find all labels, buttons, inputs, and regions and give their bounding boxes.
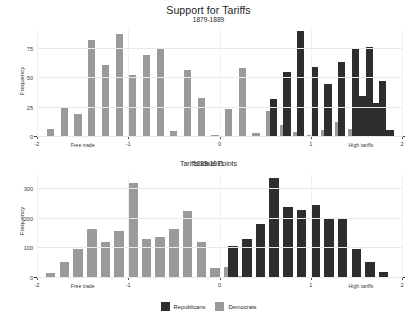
y-axis-tick-label: 300 xyxy=(24,186,33,192)
legend-item-democrats[interactable]: Democrats xyxy=(215,302,256,311)
histogram-bar-democrats xyxy=(128,183,138,278)
gridline-vertical xyxy=(402,29,403,137)
legend-item-republicans[interactable]: Republicans xyxy=(161,302,206,311)
histogram-bar-republicans xyxy=(256,224,266,278)
axis-annotation: High tariffs xyxy=(349,142,374,148)
x-axis-tick-mark xyxy=(220,278,221,280)
tariffs-support-figure: Support for Tariffs 1879-1889 Frequency … xyxy=(0,0,417,323)
x-axis-tick-mark xyxy=(37,278,38,280)
histogram-bar-democrats xyxy=(183,211,193,278)
histogram-bar-republicans xyxy=(359,96,366,137)
y-axis-tick-label: 100 xyxy=(24,245,33,251)
x-axis-tick-label: 0 xyxy=(218,141,221,147)
histogram-bar-democrats xyxy=(88,40,95,137)
y-axis-tick-label: 0 xyxy=(30,275,33,281)
histogram-bar-republicans xyxy=(324,219,334,278)
histogram-bar-republicans xyxy=(352,249,362,278)
histogram-bar-republicans xyxy=(297,210,307,278)
axis-annotation: Free trade xyxy=(71,283,95,289)
histogram-bar-republicans xyxy=(269,178,279,278)
x-axis-tick-label: 1 xyxy=(309,141,312,147)
histogram-bar-democrats xyxy=(102,65,109,137)
gridline-vertical xyxy=(128,174,129,278)
y-axis-tick-label: 75 xyxy=(27,46,33,52)
x-axis-tick-label: 1 xyxy=(309,282,312,288)
x-axis-tick-mark xyxy=(402,278,403,280)
histogram-bar-republicans xyxy=(365,262,375,278)
histogram-bar-democrats xyxy=(73,249,83,278)
histogram-bar-democrats xyxy=(184,70,191,137)
x-axis-tick-label: 2 xyxy=(400,141,403,147)
histogram-bar-democrats xyxy=(116,34,123,137)
x-axis-tick-label: 0 xyxy=(218,282,221,288)
page-title: Support for Tariffs xyxy=(0,4,417,16)
gridline-vertical xyxy=(220,174,221,278)
histogram-bar-republicans xyxy=(228,246,238,278)
x-axis-tick-mark xyxy=(220,137,221,139)
legend-label: Democrats xyxy=(228,304,256,310)
y-axis-tick-label: 50 xyxy=(27,75,33,81)
panel-subtitle-top: 1879-1889 xyxy=(0,16,417,23)
gridline-vertical xyxy=(128,29,129,137)
histogram-bar-democrats xyxy=(61,108,68,137)
histogram-bar-democrats xyxy=(157,48,164,137)
x-axis-tick-mark xyxy=(37,137,38,139)
gridline-vertical xyxy=(311,174,312,278)
histogram-bar-republicans xyxy=(366,47,373,137)
plot-area-bottom: 0100200300-2-1012Free tradeHigh tariffs xyxy=(37,174,402,278)
histogram-bar-democrats xyxy=(87,229,97,278)
x-axis-tick-mark xyxy=(311,278,312,280)
gridline-vertical xyxy=(402,174,403,278)
histogram-bar-republicans xyxy=(311,205,321,278)
histogram-bar-republicans xyxy=(270,99,277,137)
histogram-bar-democrats xyxy=(155,237,165,278)
histogram-bar-republicans xyxy=(352,49,359,137)
axis-annotation: High tariffs xyxy=(349,283,374,289)
x-axis-tick-label: -1 xyxy=(126,141,131,147)
gridline-vertical xyxy=(37,174,38,278)
x-axis-tick-mark xyxy=(128,137,129,139)
plot-area-top: 0255075-2-1012Free tradeHigh tariffs xyxy=(37,29,402,137)
y-axis-label-top: Frequency xyxy=(19,67,25,95)
histogram-bar-democrats xyxy=(198,98,205,137)
x-axis-tick-label: 2 xyxy=(400,282,403,288)
histogram-bar-republicans xyxy=(242,239,252,278)
y-axis-tick-label: 25 xyxy=(27,105,33,111)
axis-annotation: Free trade xyxy=(71,142,95,148)
x-axis-tick-label: -2 xyxy=(35,141,40,147)
histogram-bar-democrats xyxy=(114,231,124,278)
chart-panel-1889-1911: 1889-1911 Frequency 0100200300-2-1012Fre… xyxy=(0,160,417,300)
histogram-bar-republicans xyxy=(324,84,331,137)
histogram-bar-democrats xyxy=(225,109,232,137)
histogram-bar-democrats xyxy=(60,262,70,278)
gridline-vertical xyxy=(311,29,312,137)
histogram-bar-republicans xyxy=(283,72,290,137)
panel-subtitle-bottom: 1889-1911 xyxy=(0,160,417,167)
histogram-bar-republicans xyxy=(373,103,380,137)
legend-label: Republicans xyxy=(174,304,206,310)
histogram-bar-democrats xyxy=(143,55,150,137)
histogram-bar-democrats xyxy=(74,114,81,137)
x-axis-tick-mark xyxy=(311,137,312,139)
x-axis-tick-mark xyxy=(402,137,403,139)
gridline-vertical xyxy=(37,29,38,137)
chart-legend: RepublicansDemocrats xyxy=(0,302,417,311)
gridline-vertical xyxy=(220,29,221,137)
histogram-bar-republicans xyxy=(379,81,386,137)
legend-swatch-republicans xyxy=(161,302,170,311)
x-axis-tick-label: -1 xyxy=(126,282,131,288)
chart-panel-1879-1889: 1879-1889 Frequency 0255075-2-1012Free t… xyxy=(0,16,417,166)
histogram-bar-democrats xyxy=(169,229,179,278)
legend-swatch-democrats xyxy=(215,302,224,311)
y-axis-tick-label: 200 xyxy=(24,216,33,222)
x-axis-tick-mark xyxy=(128,278,129,280)
histogram-bar-democrats xyxy=(142,239,152,278)
x-axis-tick-label: -2 xyxy=(35,282,40,288)
y-axis-tick-label: 0 xyxy=(30,134,33,140)
histogram-bar-republicans xyxy=(338,62,345,137)
